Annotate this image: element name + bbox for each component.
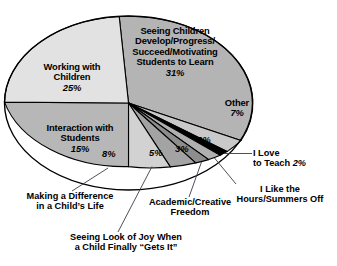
slice-percent-making-a-difference: 8%	[102, 148, 116, 159]
callout-line1: I Love	[253, 148, 280, 158]
slice-label-line4: Students to Learn	[136, 56, 213, 67]
callout-line1: I Like the	[260, 184, 300, 194]
slice-label-line3: Succeed/Motivating	[132, 46, 217, 57]
pie-chart: Seeing Children Develop/Progress/ Succee…	[0, 0, 337, 266]
slice-percent-i-like-the-hours: 3%	[197, 134, 211, 145]
callout-label-seeing-look-of-joy: Seeing Look of Joy When a Child Finally …	[57, 232, 195, 252]
slice-label-interaction-with-students: Interaction with Students 15%	[28, 123, 132, 154]
callout-line2: Hours/Summers Off	[237, 194, 324, 204]
slice-label-other: Other 7%	[209, 98, 265, 119]
callout-line1: Seeing Look of Joy When	[70, 232, 182, 242]
slice-label-other-text: Other	[225, 97, 249, 108]
slice-label-line1: Interaction with	[47, 122, 114, 133]
callout-line1: Academic/Creative	[149, 197, 231, 207]
callout-line1: Making a Difference	[27, 191, 114, 201]
callout-line2: in a Child’s Life	[36, 201, 104, 211]
slice-label-line1: Working with	[44, 61, 101, 72]
leader-line-academic-creative-freedom	[189, 162, 202, 197]
leader-line-i-like-the-hours	[215, 158, 237, 184]
slice-label-line2: Students	[61, 132, 100, 143]
slice-percent-seeing-children-develop: 31%	[119, 68, 231, 78]
slice-percent-working-with-children: 25%	[24, 83, 120, 93]
slice-label-seeing-children-develop: Seeing Children Develop/Progress/ Succee…	[119, 26, 231, 78]
slice-label-line1: Seeing Children	[140, 25, 209, 36]
callout-line2: a Child Finally “Gets It”	[75, 242, 178, 252]
slice-percent-academic-creative-freedom: 3%	[175, 143, 189, 154]
callout-label-i-like-the-hours: I Like the Hours/Summers Off	[223, 184, 337, 204]
callout-label-making-a-difference: Making a Difference in a Child’s Life	[6, 191, 134, 211]
slice-percent-seeing-look-of-joy: 5%	[149, 147, 163, 158]
callout-line2: Freedom	[171, 207, 210, 217]
slice-percent-other: 7%	[209, 108, 265, 118]
slice-percent-interaction-with-students: 15%	[28, 144, 132, 154]
callout-line2: to Teach	[253, 158, 290, 168]
callout-percent-i-love-to-teach: 2%	[293, 158, 306, 168]
slice-label-line2: Develop/Progress/	[135, 35, 215, 46]
slice-label-working-with-children: Working with Children 25%	[24, 62, 120, 93]
slice-label-line2: Children	[54, 71, 91, 82]
callout-label-i-love-to-teach: I Love to Teach 2%	[253, 148, 335, 168]
callout-label-academic-creative-freedom: Academic/Creative Freedom	[141, 197, 239, 217]
